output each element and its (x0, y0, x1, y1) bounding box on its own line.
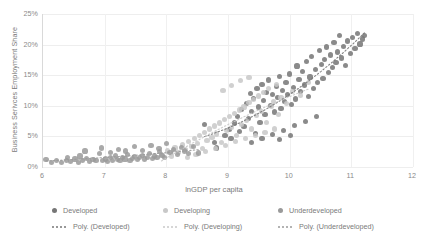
gridline-horizontal (43, 167, 413, 168)
x-axis-tick-label: 8 (153, 172, 177, 179)
y-axis-tick-label: 20% (12, 41, 38, 48)
legend-marker-icon (52, 208, 57, 213)
x-axis-tick-label: 10 (277, 172, 301, 179)
legend-marker-icon (278, 208, 283, 213)
legend-dotted-line-swatch (278, 226, 294, 228)
y-axis-tick-label: 15% (12, 71, 38, 78)
chart-legend: DevelopedDevelopingUnderdeveloped Poly. … (0, 203, 428, 237)
legend-row-series: DevelopedDevelopingUnderdeveloped (0, 203, 428, 218)
x-axis-title: lnGDP per capita (0, 185, 428, 194)
trendline (46, 150, 198, 161)
scatter-chart: Business Serivces Employment Share 0%5%1… (0, 0, 428, 248)
legend-dotted-line-swatch (163, 226, 179, 228)
x-axis-tick-label: 9 (215, 172, 239, 179)
y-axis-tick-label: 25% (12, 10, 38, 17)
y-axis-tick-label: 0% (12, 163, 38, 170)
trendline-svg (43, 14, 413, 167)
gridline-vertical (413, 14, 414, 167)
legend-label: Underdeveloped (289, 206, 342, 215)
trendline (205, 32, 365, 136)
legend-label: Developed (63, 206, 97, 215)
legend-label: Poly. (Underdeveloped) (299, 222, 374, 231)
x-axis-tick-label: 12 (400, 172, 424, 179)
y-axis-tick-label: 10% (12, 102, 38, 109)
y-axis-tick-label: 5% (12, 132, 38, 139)
legend-label: Poly. (Developing) (184, 222, 242, 231)
legend-marker-icon (163, 208, 168, 213)
plot-area (42, 14, 413, 168)
x-axis-tick-label: 6 (30, 172, 54, 179)
legend-row-trendlines: Poly. (Developed)Poly. (Developing)Poly.… (0, 219, 428, 234)
x-axis-tick-label: 11 (338, 172, 362, 179)
x-axis-tick-label: 7 (92, 172, 116, 179)
legend-dotted-line-swatch (52, 226, 68, 228)
legend-item[interactable]: Underdeveloped (278, 203, 342, 218)
legend-item[interactable]: Poly. (Developing) (163, 219, 242, 234)
legend-label: Poly. (Developed) (73, 222, 130, 231)
legend-item[interactable]: Developed (52, 203, 97, 218)
legend-item[interactable]: Poly. (Underdeveloped) (278, 219, 374, 234)
legend-label: Developing (174, 206, 210, 215)
legend-item[interactable]: Poly. (Developed) (52, 219, 130, 234)
legend-item[interactable]: Developing (163, 203, 210, 218)
